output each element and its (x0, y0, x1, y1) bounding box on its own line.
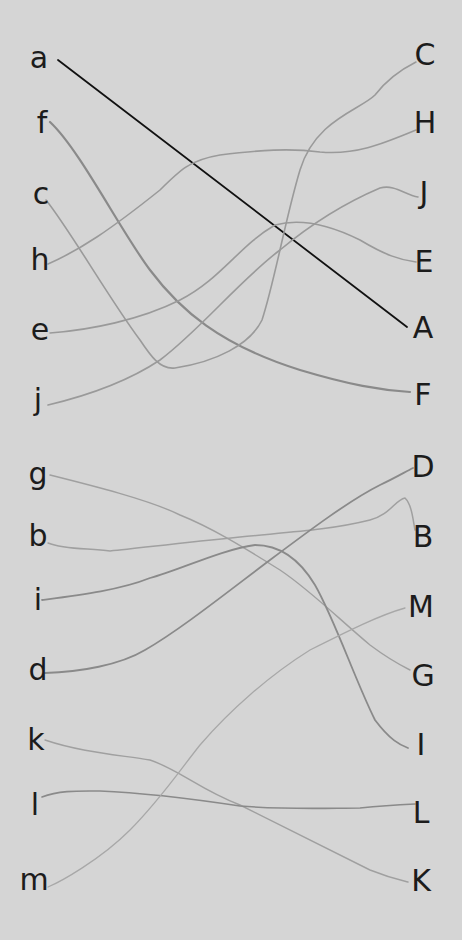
connection-line-m-to-M (48, 608, 405, 887)
connection-line-k-to-K (45, 740, 408, 882)
right-letter-D: D (411, 452, 434, 482)
connection-line-g-to-G (50, 475, 410, 670)
left-letter-g: g (28, 459, 47, 489)
right-letter-C: C (415, 40, 436, 70)
left-letter-j: j (34, 385, 42, 415)
left-letter-h: h (30, 245, 49, 275)
connection-line-d-to-D (45, 468, 413, 673)
right-letter-I: I (417, 730, 426, 760)
right-letter-A: A (413, 313, 434, 343)
right-letter-H: H (414, 108, 437, 138)
right-letter-J: J (420, 178, 429, 208)
right-letter-M: M (408, 592, 434, 622)
connection-line-b-to-B (48, 498, 415, 551)
connection-line-e-to-E (50, 222, 416, 333)
right-letter-E: E (415, 247, 434, 277)
connection-lines (0, 0, 462, 940)
matching-worksheet: afchejgbidklm CHJEAFDBMGILK (0, 0, 462, 940)
left-letter-f: f (37, 108, 48, 138)
left-letter-i: i (34, 585, 42, 615)
right-letter-K: K (411, 866, 431, 896)
right-letter-L: L (413, 798, 430, 828)
connection-line-a-to-A (58, 60, 407, 327)
left-letter-a: a (30, 43, 48, 73)
connection-line-c-to-C (46, 62, 416, 368)
connection-line-j-to-J (48, 187, 418, 405)
right-letter-G: G (411, 661, 434, 691)
right-letter-B: B (413, 522, 434, 552)
left-letter-l: l (31, 790, 39, 820)
right-letter-F: F (414, 380, 431, 410)
left-letter-b: b (28, 521, 47, 551)
left-letter-m: m (19, 865, 48, 895)
left-letter-k: k (27, 725, 44, 755)
left-letter-e: e (31, 315, 49, 345)
left-letter-c: c (33, 179, 50, 209)
connection-line-f-to-F (50, 122, 410, 392)
left-letter-d: d (28, 655, 47, 685)
